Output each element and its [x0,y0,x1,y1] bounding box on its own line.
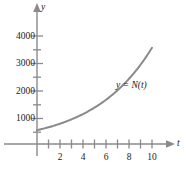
y-axis-label: y [41,3,45,13]
y-tick-label-2000: 2000 [5,87,35,97]
y-tick-label-4000: 4000 [5,32,35,42]
exponential-growth-chart: 4000 3000 2000 1000 2 4 6 8 10 y t y = N… [0,0,187,176]
x-tick-label-8: 8 [117,153,141,163]
x-tick-label-10: 10 [140,153,164,163]
y-tick-label-3000: 3000 [5,59,35,69]
y-tick-label-1000: 1000 [5,114,35,124]
x-tick-label-2: 2 [48,153,72,163]
x-axis-label: t [177,139,180,149]
x-axis-arrowhead [166,140,175,148]
x-tick-label-4: 4 [71,153,95,163]
x-tick-label-6: 6 [94,153,118,163]
curve-equation-label: y = N(t) [116,81,147,91]
y-axis-arrowhead [33,3,41,12]
